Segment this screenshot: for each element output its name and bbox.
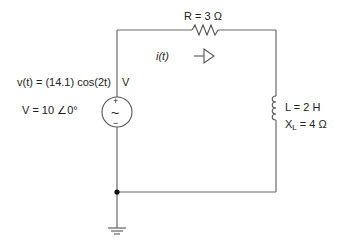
source-phasor-label: V = 10 ∠0° <box>22 105 78 116</box>
xl-value: = 4 Ω <box>297 118 327 130</box>
current-arrow-icon <box>194 49 214 63</box>
source-vt-text: v(t) = (14.1) cos(2t) <box>17 76 111 88</box>
source-time-label: v(t) = (14.1) cos(2t) <box>17 77 111 88</box>
ground-icon <box>108 228 126 234</box>
inductor-L-label: L = 2 H <box>285 102 320 113</box>
source-minus-sign: − <box>113 119 118 128</box>
current-label: i(t) <box>156 51 169 62</box>
resistor-symbol <box>192 25 218 35</box>
source-unit-label: V <box>122 77 129 88</box>
resistor-label: R = 3 Ω <box>184 11 222 22</box>
inductor-XL-label: XL = 4 Ω <box>285 119 327 132</box>
inductor-symbol <box>272 96 276 120</box>
junction-node <box>114 189 119 194</box>
